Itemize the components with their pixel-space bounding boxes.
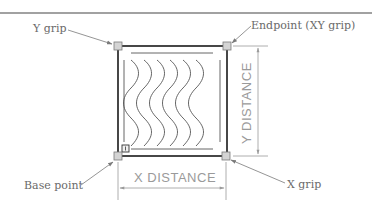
endpoint-leader: [232, 26, 251, 43]
wave-pattern: [124, 60, 204, 146]
y-grip-leader: [68, 30, 112, 44]
base-point-label: Base point: [24, 180, 83, 192]
endpoint-xy-grip[interactable]: [223, 42, 231, 50]
endpoint-xy-grip-label: Endpoint (XY grip): [251, 20, 355, 32]
y-grip[interactable]: [114, 42, 122, 50]
x-grip[interactable]: [222, 152, 230, 160]
y-grip-label: Y grip: [33, 23, 67, 35]
y-distance-label: Y DISTANCE: [240, 62, 254, 144]
x-distance-label: X DISTANCE: [134, 171, 216, 185]
x-grip-leader: [231, 160, 285, 183]
base-point-grip[interactable]: [114, 152, 122, 160]
insertion-point-icon: [122, 145, 129, 152]
x-grip-label: X grip: [287, 179, 321, 191]
base-point-leader: [81, 162, 113, 185]
